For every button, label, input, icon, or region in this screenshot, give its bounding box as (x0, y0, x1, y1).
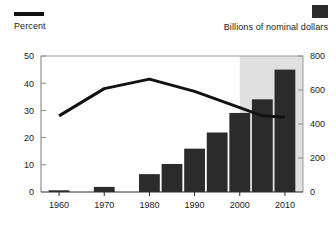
bar (162, 164, 183, 192)
legend-dollars: Billions of nominal dollars (224, 5, 328, 33)
legend-percent-label: Percent (14, 21, 154, 32)
x-axis-tick-label: 2010 (275, 200, 295, 210)
y-axis-tick-label: 0 (29, 187, 34, 197)
line-swatch-icon (14, 12, 44, 16)
x-axis-tick-label: 1980 (139, 200, 159, 210)
x-axis-tick-label: 1990 (185, 200, 205, 210)
bar (275, 70, 296, 192)
y-axis-tick-label: 30 (24, 106, 34, 116)
plot-area: 0102030405002004006008001960197019801990… (0, 48, 336, 226)
legend-percent: Percent (14, 8, 154, 32)
chart-figure: Percent Billions of nominal dollars 0102… (0, 0, 336, 226)
bar (184, 149, 205, 192)
bar (94, 187, 115, 192)
x-axis-tick-label: 1970 (94, 200, 114, 210)
y-axis-tick-label: 50 (24, 51, 34, 61)
bar (49, 190, 70, 192)
y2-axis-tick-label: 200 (310, 153, 325, 163)
chart-svg: 0102030405002004006008001960197019801990… (0, 48, 336, 226)
square-swatch-icon (312, 5, 328, 18)
bar (139, 174, 160, 192)
x-axis-tick-label: 1960 (49, 200, 69, 210)
y2-axis-tick-label: 400 (310, 119, 325, 129)
y2-axis-tick-label: 600 (310, 85, 325, 95)
x-axis-tick-label: 2000 (230, 200, 250, 210)
y-axis-tick-label: 40 (24, 79, 34, 89)
bar (229, 113, 250, 192)
y-axis-tick-label: 20 (24, 133, 34, 143)
legend-dollars-label: Billions of nominal dollars (224, 22, 328, 33)
y2-axis-tick-label: 0 (310, 187, 315, 197)
y-axis-tick-label: 10 (24, 160, 34, 170)
y2-axis-tick-label: 800 (310, 51, 325, 61)
bar (207, 133, 228, 193)
